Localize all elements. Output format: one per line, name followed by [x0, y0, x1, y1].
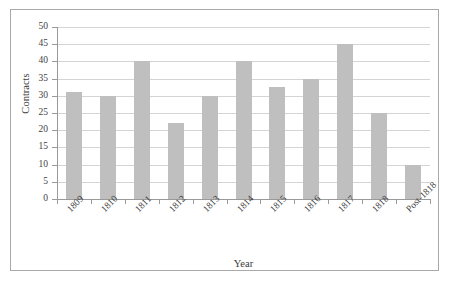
y-axis-tick-mark: [52, 61, 57, 62]
x-axis-tick-mark: [328, 200, 329, 204]
y-axis-tick-mark: [52, 147, 57, 148]
x-axis-tick-mark: [227, 200, 228, 204]
x-axis-tick-label: 1811: [133, 194, 153, 214]
chart-figure: 05101520253035404550 1809181018111812181…: [0, 0, 453, 288]
x-axis-tick-label: 1818: [370, 194, 391, 215]
x-axis-tick-mark: [260, 200, 261, 204]
x-axis-tick-mark: [294, 200, 295, 204]
x-axis-tick-label: 1815: [268, 194, 289, 215]
x-axis-tick-mark: [396, 200, 397, 204]
x-axis-tick-label: Post-1818: [404, 180, 438, 214]
x-axis-tick-label: 1812: [167, 194, 188, 215]
y-axis-tick-mark: [52, 165, 57, 166]
x-axis-tick-label: 1810: [99, 194, 120, 215]
x-axis-tick-mark: [362, 200, 363, 204]
y-axis-tick-mark: [52, 79, 57, 80]
x-axis-tick-label: 1816: [302, 194, 323, 215]
y-axis-tick-mark: [52, 130, 57, 131]
x-axis-tick-labels: 1809181018111812181318141815181618171818…: [0, 0, 453, 288]
x-axis-title: Year: [57, 258, 430, 269]
x-axis-tick-mark: [159, 200, 160, 204]
x-axis-tick-label: 1809: [65, 194, 86, 215]
x-axis-tick-label: 1814: [235, 194, 256, 215]
x-axis-tick-label: 1813: [201, 194, 222, 215]
x-axis-tick-mark: [125, 200, 126, 204]
x-axis-tick-mark: [57, 200, 58, 204]
x-axis-tick-mark: [430, 200, 431, 204]
y-axis-tick-mark: [52, 44, 57, 45]
y-axis-tick-mark: [52, 96, 57, 97]
x-axis-tick-label: 1817: [336, 194, 357, 215]
y-axis-title: Contracts: [20, 54, 31, 134]
x-axis-tick-mark: [193, 200, 194, 204]
y-axis-tick-mark: [52, 182, 57, 183]
y-axis-tick-mark: [52, 27, 57, 28]
x-axis-tick-mark: [91, 200, 92, 204]
y-axis-tick-mark: [52, 113, 57, 114]
